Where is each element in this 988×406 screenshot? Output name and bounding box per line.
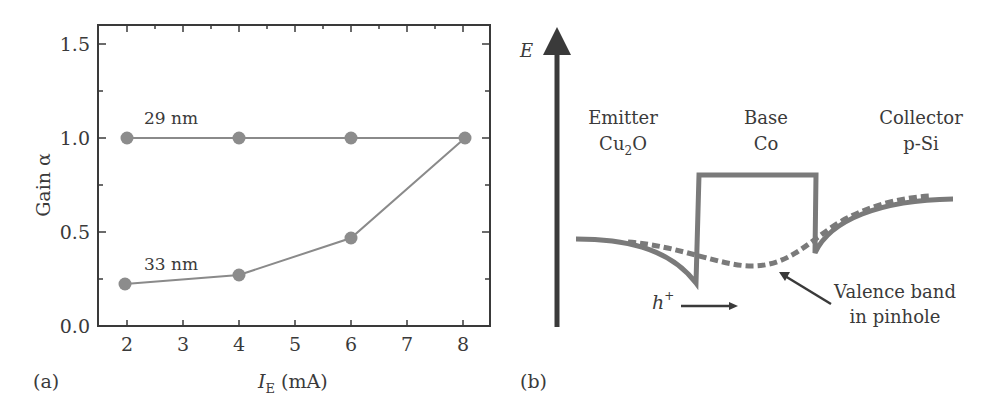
collector-material: p-Si — [903, 133, 939, 154]
x-tick-label: 8 — [457, 333, 469, 355]
emitter-label: Emitter — [588, 107, 658, 128]
x-tick-label: 4 — [233, 333, 245, 355]
panel-b-label: (b) — [520, 370, 547, 392]
y-tick-labels: 0.0 0.5 1.0 1.5 — [60, 33, 90, 337]
y-tick-label: 0.0 — [60, 315, 90, 337]
collector-label: Collector — [879, 107, 963, 128]
x-tick-label: 5 — [289, 333, 301, 355]
panel-b-diagram: E Emitter Cu2O Base Co Collector p-Si h+… — [519, 27, 963, 392]
x-tick-label: 7 — [401, 333, 413, 355]
series-label-29nm: 29 nm — [144, 108, 198, 128]
energy-axis-label: E — [519, 40, 533, 61]
x-axis-label: IE (mA) — [257, 370, 328, 396]
valence-annotation-line1: Valence band — [833, 281, 956, 302]
y-axis-label: Gain α — [32, 153, 54, 217]
valence-annotation-line2: in pinhole — [850, 306, 941, 327]
panel-a-label: (a) — [33, 370, 59, 392]
panel-a-chart: 0.0 0.5 1.0 1.5 2 3 4 5 6 7 8 Gain α IE … — [32, 25, 490, 396]
y-tick-label: 1.5 — [60, 33, 90, 55]
x-tick-labels: 2 3 4 5 6 7 8 — [121, 333, 469, 355]
figure: 0.0 0.5 1.0 1.5 2 3 4 5 6 7 8 Gain α IE … — [0, 0, 988, 406]
x-tick-label: 3 — [177, 333, 189, 355]
base-label: Base — [744, 107, 788, 128]
x-tick-label: 2 — [121, 333, 133, 355]
energy-axis-arrow-icon — [543, 27, 571, 55]
y-ticks — [98, 44, 490, 326]
y-tick-label: 0.5 — [60, 221, 90, 243]
y-tick-label: 1.0 — [60, 127, 90, 149]
annotation-arrow — [785, 276, 831, 304]
hole-label: h+ — [652, 289, 674, 313]
emitter-material: Cu2O — [599, 133, 647, 158]
base-material: Co — [754, 133, 779, 154]
x-tick-label: 6 — [345, 333, 357, 355]
hole-arrow-head-icon — [729, 302, 738, 310]
series-label-33nm: 33 nm — [144, 254, 198, 274]
annotation-arrow-head-icon — [779, 272, 790, 281]
